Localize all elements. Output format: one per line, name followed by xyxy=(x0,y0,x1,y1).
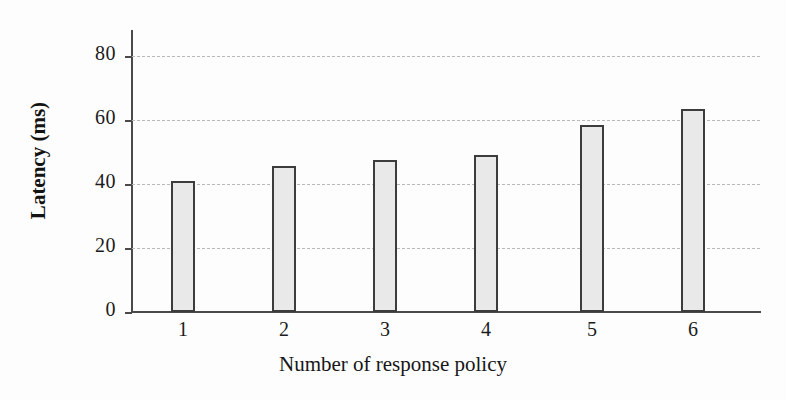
y-tick-mark-40 xyxy=(125,184,132,186)
bar-2 xyxy=(272,166,296,312)
y-tick-label-40: 40 xyxy=(70,170,116,193)
bar-4 xyxy=(474,155,498,312)
x-tick-label-2: 2 xyxy=(254,318,314,341)
gridline-20 xyxy=(132,248,760,249)
x-axis-title: Number of response policy xyxy=(0,352,786,377)
x-tick-label-5: 5 xyxy=(562,318,622,341)
bar-5 xyxy=(580,125,604,312)
chart-figure: Latency (ms) Number of response policy 0… xyxy=(0,0,786,400)
x-tick-label-3: 3 xyxy=(355,318,415,341)
gridline-40 xyxy=(132,184,760,185)
y-tick-label-60: 60 xyxy=(70,106,116,129)
y-tick-mark-60 xyxy=(125,120,132,122)
gridline-60 xyxy=(132,120,760,121)
plot-area xyxy=(132,30,760,312)
bar-6 xyxy=(681,109,705,312)
x-tick-label-6: 6 xyxy=(663,318,723,341)
y-tick-mark-0 xyxy=(125,312,132,314)
gridline-80 xyxy=(132,56,760,57)
y-tick-label-80: 80 xyxy=(70,42,116,65)
y-axis-title: Latency (ms) xyxy=(26,71,51,251)
y-tick-mark-20 xyxy=(125,248,132,250)
bar-3 xyxy=(373,160,397,312)
x-tick-label-4: 4 xyxy=(456,318,516,341)
x-tick-label-1: 1 xyxy=(153,318,213,341)
y-tick-mark-80 xyxy=(125,56,132,58)
y-tick-label-20: 20 xyxy=(70,234,116,257)
bar-1 xyxy=(171,181,195,312)
y-tick-label-0: 0 xyxy=(70,298,116,321)
